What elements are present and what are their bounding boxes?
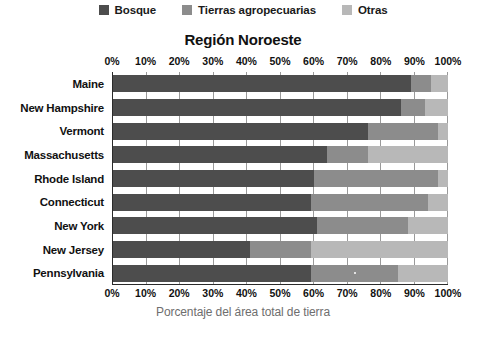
x-tick-label: 70% (337, 55, 358, 67)
x-tick-label: 90% (404, 55, 425, 67)
category-label: Vermont (59, 125, 104, 137)
bar-row (113, 217, 448, 234)
bar-series-container (113, 72, 448, 284)
bar-segment (311, 194, 428, 211)
bar-row (113, 241, 448, 258)
bar-segment (113, 123, 368, 140)
x-tick-label: 90% (404, 287, 425, 299)
bar-segment (408, 217, 448, 234)
x-tick-label: 100% (435, 287, 462, 299)
chart-title: Región Noroeste (0, 31, 486, 48)
x-tick-label: 50% (269, 287, 290, 299)
plot-area (112, 72, 448, 285)
y-axis-category-labels: MaineNew HampshireVermontMassachusettsRh… (0, 72, 108, 285)
legend-swatch-otras (342, 5, 352, 15)
legend-label-bosque: Bosque (115, 4, 157, 16)
bar-segment (431, 75, 448, 92)
x-tick-label: 50% (269, 55, 290, 67)
category-label: New Jersey (43, 244, 104, 256)
bar-segment (398, 265, 448, 282)
category-label: Massachusetts (24, 149, 104, 161)
legend-item-otras: Otras (342, 4, 388, 16)
legend-item-bosque: Bosque (99, 4, 157, 16)
bar-segment (438, 170, 448, 187)
x-tick-label: 10% (135, 55, 156, 67)
x-tick-label: 20% (169, 287, 190, 299)
bar-segment (401, 99, 424, 116)
bar-row (113, 75, 448, 92)
legend-swatch-bosque (99, 5, 109, 15)
category-label: New Hampshire (20, 102, 104, 114)
chart-legend: Bosque Tierras agropecuarias Otras (0, 4, 486, 16)
category-label: Maine (72, 78, 104, 90)
bar-segment (317, 217, 407, 234)
bar-segment (438, 123, 448, 140)
legend-label-otras: Otras (358, 4, 388, 16)
x-tick-label: 40% (236, 287, 257, 299)
x-tick-label: 10% (135, 287, 156, 299)
bar-segment (113, 170, 314, 187)
bar-row (113, 123, 448, 140)
legend-swatch-tierras-agropecuarias (182, 5, 192, 15)
x-axis-ticks-bottom: 0%10%20%30%40%50%60%70%80%90%100% (112, 287, 448, 301)
bar-segment (113, 99, 401, 116)
bar-segment (113, 241, 250, 258)
x-tick-label: 0% (104, 287, 119, 299)
bar-row (113, 99, 448, 116)
x-tick-label: 30% (202, 55, 223, 67)
bar-segment (368, 123, 438, 140)
bar-segment (314, 170, 438, 187)
bar-row (113, 146, 448, 163)
x-tick-label: 100% (435, 55, 462, 67)
bar-segment (368, 146, 448, 163)
category-label: Connecticut (40, 196, 104, 208)
image-artifact-speck (354, 272, 356, 274)
bar-row (113, 265, 448, 282)
legend-label-tierras-agropecuarias: Tierras agropecuarias (198, 4, 316, 16)
bar-segment (250, 241, 310, 258)
legend-item-tierras-agropecuarias: Tierras agropecuarias (182, 4, 316, 16)
x-tick-label: 0% (104, 55, 119, 67)
x-tick-label: 60% (303, 287, 324, 299)
bar-segment (311, 241, 448, 258)
category-label: New York (54, 220, 104, 232)
x-axis-ticks-top: 0%10%20%30%40%50%60%70%80%90%100% (112, 55, 448, 69)
bar-segment (327, 146, 367, 163)
bar-segment (411, 75, 431, 92)
x-axis-title: Porcentaje del área total de tierra (0, 305, 486, 319)
bar-segment (113, 75, 411, 92)
x-tick-label: 80% (370, 287, 391, 299)
stacked-bar-chart: Bosque Tierras agropecuarias Otras Regió… (0, 0, 486, 353)
bar-segment (113, 265, 311, 282)
bar-row (113, 194, 448, 211)
x-tick-label: 80% (370, 55, 391, 67)
bar-segment (113, 146, 327, 163)
x-tick-label: 40% (236, 55, 257, 67)
x-tick-label: 30% (202, 287, 223, 299)
x-tick-label: 20% (169, 55, 190, 67)
bar-segment (113, 217, 317, 234)
bar-segment (428, 194, 448, 211)
category-label: Rhode Island (34, 173, 104, 185)
bar-segment (113, 194, 311, 211)
x-tick-label: 70% (337, 287, 358, 299)
x-tick-label: 60% (303, 55, 324, 67)
category-label: Pennsylvania (33, 267, 104, 279)
bar-row (113, 170, 448, 187)
bar-segment (425, 99, 448, 116)
